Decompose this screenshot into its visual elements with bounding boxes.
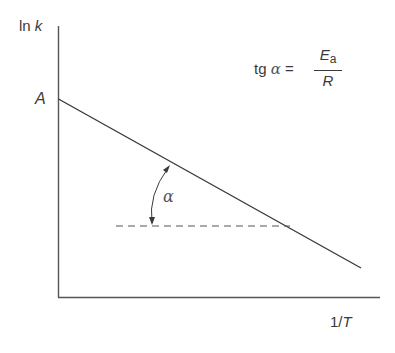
y-axis-label: ln k bbox=[19, 17, 42, 34]
formula-equals: = bbox=[285, 60, 294, 77]
y-axis-label-prefix: ln bbox=[19, 17, 35, 34]
x-axis-label-prefix: 1/ bbox=[330, 313, 343, 330]
angle-label: α bbox=[163, 187, 174, 206]
fraction-bar bbox=[314, 70, 342, 71]
formula-lhs: tg α = bbox=[254, 60, 294, 78]
arc-arrowhead-bottom-icon bbox=[149, 217, 155, 225]
formula-alpha: α bbox=[271, 60, 281, 78]
x-axis-label: 1/T bbox=[330, 313, 352, 330]
y-axis-label-var: k bbox=[35, 17, 43, 34]
arrhenius-line bbox=[59, 99, 362, 268]
formula-fraction: Ea R bbox=[314, 46, 342, 89]
formula-denominator: R bbox=[323, 72, 334, 89]
intercept-label: A bbox=[35, 90, 46, 108]
numerator-var: E bbox=[320, 46, 330, 63]
arc-arrowhead-top-icon bbox=[163, 165, 170, 173]
numerator-sub: a bbox=[330, 52, 337, 66]
formula-func: tg bbox=[254, 60, 267, 77]
formula-numerator: Ea bbox=[320, 46, 337, 68]
x-axis-label-var: T bbox=[343, 313, 352, 330]
